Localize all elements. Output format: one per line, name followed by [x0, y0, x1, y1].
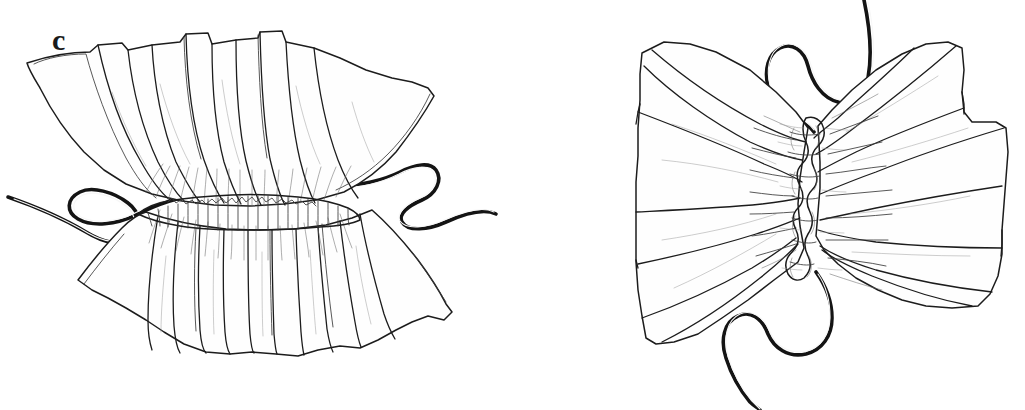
panel-c: c — [0, 0, 512, 410]
panel-d: d — [512, 0, 1025, 410]
panel-c-lower-fan — [78, 210, 452, 356]
panel-d-left-wing — [636, 42, 808, 344]
panel-d-right-wing — [814, 42, 1008, 308]
figure-root: c — [0, 0, 1025, 410]
panel-d-drawing — [512, 0, 1025, 410]
panel-c-drawing — [0, 0, 512, 410]
panel-c-label: c — [52, 25, 65, 55]
